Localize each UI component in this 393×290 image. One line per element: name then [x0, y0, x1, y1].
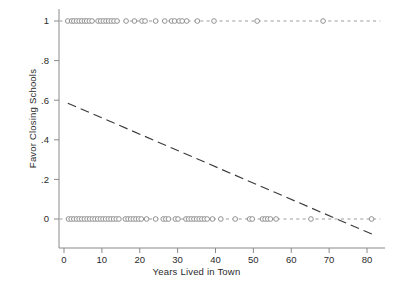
data-point: [210, 217, 215, 222]
data-point: [255, 19, 260, 24]
data-point: [115, 19, 120, 24]
data-point: [166, 217, 171, 222]
data-point: [172, 19, 177, 24]
data-point: [153, 217, 158, 222]
linear-fit-line: [68, 103, 373, 234]
data-point: [369, 217, 374, 222]
data-point: [212, 19, 217, 24]
x-tick-label: 60: [286, 254, 297, 265]
data-point: [153, 19, 158, 24]
x-tick-label: 50: [248, 254, 259, 265]
y-tick-label: .8: [41, 55, 49, 66]
y-tick-label: 1: [44, 15, 49, 26]
data-point: [176, 217, 181, 222]
x-tick-label: 40: [210, 254, 221, 265]
data-point: [205, 217, 210, 222]
data-point: [250, 217, 255, 222]
axes-group: [59, 9, 385, 248]
data-point: [132, 19, 137, 24]
data-point: [144, 217, 149, 222]
data-point: [180, 19, 185, 24]
data-point: [233, 217, 238, 222]
data-point: [90, 19, 95, 24]
x-tick-label: 0: [61, 254, 66, 265]
y-axis-title: Favor Closing Schools: [27, 39, 38, 199]
x-tick-label: 80: [362, 254, 373, 265]
data-point: [124, 19, 129, 24]
data-point: [268, 217, 273, 222]
x-axis-title: Years Lived in Town: [0, 266, 393, 277]
data-point: [195, 19, 200, 24]
data-point: [162, 19, 167, 24]
y-tick-label: .2: [41, 174, 49, 185]
scatter-plot-svg: 010203040506070800.2.4.6.81: [0, 0, 393, 290]
data-point: [218, 217, 223, 222]
y-tick-label: .6: [41, 95, 49, 106]
chart-figure: 010203040506070800.2.4.6.81 Favor Closin…: [0, 0, 393, 290]
tick-labels-group: 010203040506070800.2.4.6.81: [41, 15, 372, 265]
x-tick-label: 10: [97, 254, 108, 265]
data-point: [321, 19, 326, 24]
y-tick-label: .4: [41, 134, 49, 145]
data-points-group: [65, 19, 373, 222]
x-tick-label: 30: [172, 254, 183, 265]
data-point: [117, 217, 122, 222]
x-tick-label: 70: [324, 254, 335, 265]
data-point: [184, 19, 189, 24]
y-tick-label: 0: [44, 213, 49, 224]
data-point: [309, 217, 314, 222]
data-point: [143, 19, 148, 24]
data-point: [274, 217, 279, 222]
fit-line-group: [68, 103, 373, 234]
data-point: [139, 217, 144, 222]
x-tick-label: 20: [134, 254, 145, 265]
